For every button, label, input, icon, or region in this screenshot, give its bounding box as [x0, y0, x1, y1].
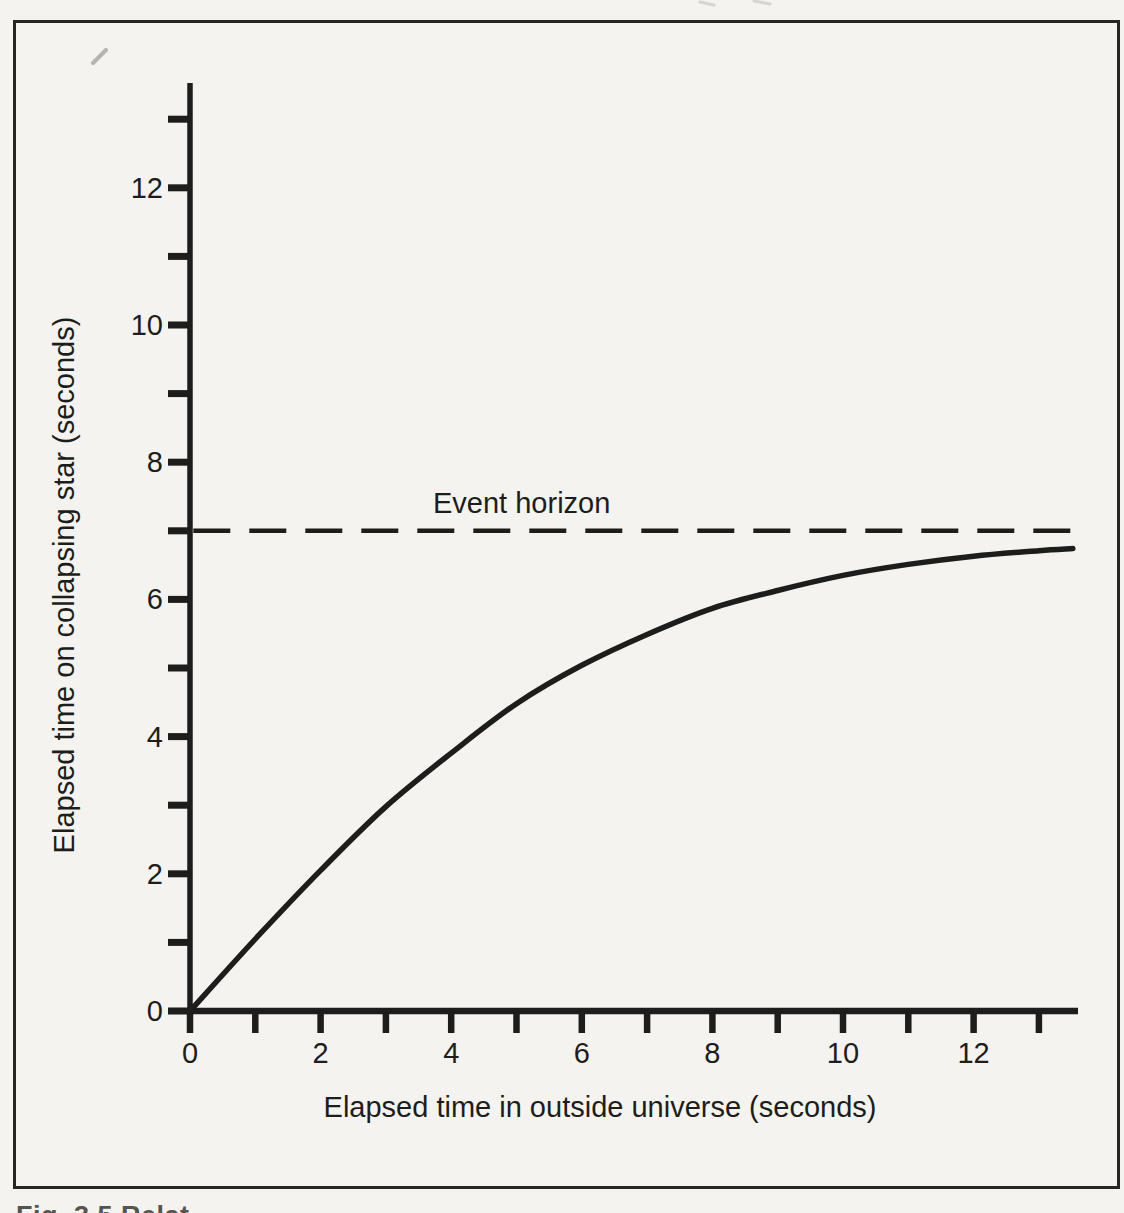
y-tick-label: 0	[147, 995, 163, 1027]
scan-artifact-specks	[700, 1, 770, 5]
time-dilation-chart: 024681012 024681012 Event horizon Elapse…	[0, 0, 1124, 1213]
y-axis-title: Elapsed time on collapsing star (seconds…	[48, 317, 80, 854]
y-tick-label: 8	[147, 446, 163, 478]
figure-caption-fragment: Fig. 3.5 Relat	[16, 1201, 616, 1213]
event-horizon-label: Event horizon	[433, 487, 610, 519]
scan-artifact-slash	[93, 50, 106, 63]
x-tick-label: 4	[443, 1037, 459, 1069]
time-dilation-curve	[190, 549, 1073, 1011]
x-tick-label: 2	[313, 1037, 329, 1069]
y-tick-label: 4	[147, 721, 163, 753]
y-axis-tick-labels: 024681012	[131, 172, 163, 1027]
y-tick-label: 6	[147, 583, 163, 615]
y-tick-label: 10	[131, 309, 163, 341]
x-axis-title: Elapsed time in outside universe (second…	[324, 1091, 877, 1123]
x-tick-label: 8	[704, 1037, 720, 1069]
y-tick-label: 12	[131, 172, 163, 204]
y-axis-ticks	[168, 119, 190, 1011]
x-tick-label: 10	[827, 1037, 859, 1069]
scanned-figure-page: 024681012 024681012 Event horizon Elapse…	[0, 0, 1124, 1213]
x-tick-label: 0	[182, 1037, 198, 1069]
x-axis-ticks	[190, 1011, 1039, 1033]
x-tick-label: 6	[574, 1037, 590, 1069]
x-tick-label: 12	[957, 1037, 989, 1069]
x-axis-tick-labels: 024681012	[182, 1037, 990, 1069]
y-tick-label: 2	[147, 858, 163, 890]
